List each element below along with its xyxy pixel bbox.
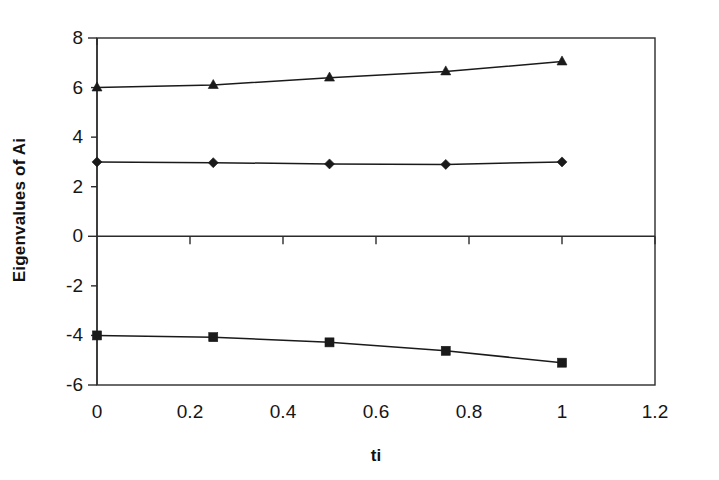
data-point-marker-square [209,333,218,342]
data-point-marker-square [325,338,334,347]
chart-container: 86420-2-4-6 00.20.40.60.811.2 Eigenvalue… [0,0,719,480]
y-tick-label: 2 [72,176,83,198]
x-tick-label: 0.8 [456,401,482,423]
y-tick-label: 4 [72,126,83,148]
x-tick-label: 1.2 [642,401,668,423]
data-point-marker-square [441,346,450,355]
y-tick-label: 0 [72,225,83,247]
x-axis-title: ti [371,446,381,466]
x-tick-label: 1 [557,401,568,423]
y-tick-label: -2 [66,275,83,297]
data-point-marker-square [93,331,102,340]
x-tick-label: 0.2 [177,401,203,423]
plot-frame [97,38,655,385]
y-tick-label: 8 [72,27,83,49]
data-point-marker-square [558,358,567,367]
y-tick-label: 6 [72,77,83,99]
y-axis-title: Eigenvalues of Ai [10,138,30,282]
y-tick-label: -4 [66,324,83,346]
y-tick-label: -6 [66,374,83,396]
chart-plot-area [0,0,719,480]
x-tick-label: 0.6 [363,401,389,423]
x-tick-label: 0 [92,401,103,423]
x-tick-label: 0.4 [270,401,296,423]
